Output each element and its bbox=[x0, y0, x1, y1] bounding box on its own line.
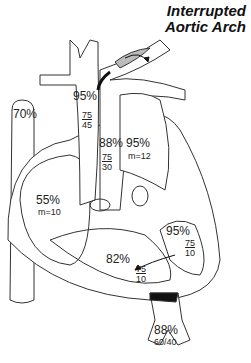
descending-aorta-dark bbox=[150, 293, 178, 302]
aorta-pressure: 7545 bbox=[80, 110, 94, 130]
pa-saturation: 88% bbox=[99, 137, 123, 149]
ra-mean-pressure: m=10 bbox=[38, 208, 61, 217]
aorta-saturation: 95% bbox=[73, 90, 97, 102]
heart-illustration bbox=[0, 0, 251, 363]
title-line-1: Interrupted bbox=[165, 3, 246, 19]
svc-saturation: 70% bbox=[13, 108, 37, 120]
title-line-2: Aortic Arch bbox=[165, 19, 246, 35]
lv-saturation: 95% bbox=[166, 225, 190, 237]
rv-pressure: 7510 bbox=[134, 264, 148, 284]
la-saturation: 95% bbox=[126, 137, 150, 149]
descending-aorta-pressure: 60/40 bbox=[154, 338, 177, 347]
la-mean-pressure: m=12 bbox=[128, 152, 151, 161]
diagram-canvas: Interrupted Aortic Arch 70% 95% 7545 88%… bbox=[0, 0, 251, 363]
lv-pressure: 7510 bbox=[183, 238, 197, 258]
pa-pressure: 7530 bbox=[100, 152, 114, 172]
descending-aorta-saturation: 88% bbox=[154, 324, 178, 336]
ra-saturation: 55% bbox=[36, 194, 60, 206]
diagram-title: Interrupted Aortic Arch bbox=[165, 3, 246, 35]
rv-saturation: 82% bbox=[106, 253, 130, 265]
